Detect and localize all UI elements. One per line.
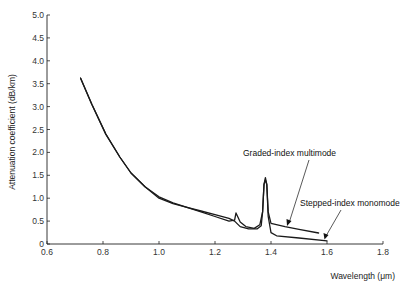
annotation-stepped-index-monomode: Stepped-index monomode — [300, 198, 400, 208]
y-tick-label: 1.5 — [32, 170, 44, 180]
y-tick-label: 2.0 — [32, 147, 44, 157]
x-tick-label: 1.0 — [153, 247, 165, 257]
x-axis: 0.60.81.01.21.41.61.8 — [41, 241, 389, 257]
x-tick-label: 1.2 — [209, 247, 221, 257]
y-tick-label: 5.0 — [32, 10, 44, 20]
arrow-head-stepped — [324, 233, 329, 240]
y-tick-label: 1.0 — [32, 193, 44, 203]
y-tick-label: 2.5 — [32, 125, 44, 135]
annotation-arrow-stepped — [326, 210, 341, 236]
y-axis-label: Attenuation coefficient (dB/km) — [7, 74, 17, 190]
x-tick-label: 0.8 — [97, 247, 109, 257]
x-tick-label: 1.8 — [377, 247, 389, 257]
x-tick-label: 0.6 — [41, 247, 53, 257]
y-tick-label: 0.5 — [32, 216, 44, 226]
arrow-head-graded — [287, 219, 292, 226]
series-stepped-index-monomode — [81, 78, 327, 241]
x-tick-label: 1.6 — [321, 247, 333, 257]
series-layer — [81, 78, 327, 241]
x-axis-label: Wavelength (μm) — [330, 271, 395, 281]
annotation-graded-index-multimode: Graded-index multimode — [243, 148, 336, 158]
y-tick-label: 4.0 — [32, 56, 44, 66]
y-tick-label: 3.5 — [32, 79, 44, 89]
y-tick-label: 4.5 — [32, 33, 44, 43]
y-axis: 00.51.01.52.02.53.03.54.04.55.0 — [32, 10, 50, 249]
annotation-arrow-graded — [289, 160, 309, 223]
x-tick-label: 1.4 — [265, 247, 277, 257]
attenuation-chart: 00.51.01.52.02.53.03.54.04.55.0 0.60.81.… — [0, 0, 406, 291]
y-tick-label: 3.0 — [32, 102, 44, 112]
